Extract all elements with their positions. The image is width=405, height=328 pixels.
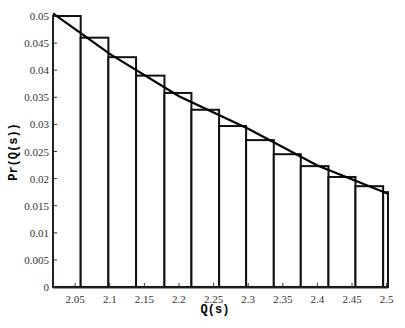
y-tick-label: 0.005	[24, 254, 49, 266]
y-tick-label: 0.045	[24, 37, 49, 49]
histogram-bar	[191, 110, 219, 287]
x-tick-label: 2.05	[66, 293, 86, 305]
x-axis-label: Q(s)	[201, 303, 230, 317]
histogram-bar	[219, 126, 246, 287]
histogram-bar	[164, 93, 191, 287]
histogram-bar	[246, 140, 274, 287]
histogram-bar	[108, 57, 136, 287]
y-tick-label: 0.05	[30, 10, 50, 22]
y-tick-label: 0.03	[30, 118, 50, 130]
histogram-chart: 00.0050.010.0150.020.0250.030.0350.040.0…	[0, 0, 405, 328]
x-tick-label: 2.1	[103, 293, 117, 305]
histogram-bar	[274, 154, 301, 287]
histogram-bar	[355, 186, 383, 287]
x-tick-label: 2.2	[172, 293, 186, 305]
x-tick-label: 2.15	[135, 293, 155, 305]
x-tick-label: 2.45	[342, 293, 362, 305]
y-tick-label: 0.01	[30, 227, 49, 239]
histogram-bar	[383, 192, 388, 287]
y-tick-label: 0.02	[30, 173, 49, 185]
x-tick-label: 2.5	[380, 293, 394, 305]
y-tick-label: 0.035	[24, 91, 49, 103]
y-axis-label: Pr(Q(s))	[7, 123, 21, 181]
histogram-bar	[328, 177, 355, 287]
x-tick-label: 2.4	[311, 293, 325, 305]
x-tick-label: 2.35	[273, 293, 293, 305]
x-tick-label: 2.3	[241, 293, 255, 305]
histogram-bar	[136, 76, 164, 287]
histogram-bar	[53, 16, 81, 287]
y-tick-label: 0.04	[30, 64, 50, 76]
y-tick-label: 0.015	[24, 200, 49, 212]
histogram-bar	[301, 166, 329, 287]
histogram-bars	[53, 16, 388, 287]
y-tick-label: 0	[44, 281, 50, 293]
histogram-bar	[81, 38, 109, 287]
y-tick-label: 0.025	[24, 146, 49, 158]
